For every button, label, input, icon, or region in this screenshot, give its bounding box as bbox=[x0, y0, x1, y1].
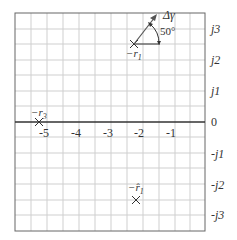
pole-label-r3-sub: 3 bbox=[43, 112, 47, 121]
pole-label-r1: −r1 bbox=[126, 48, 142, 62]
real-tick-minus-2: -2 bbox=[134, 127, 144, 139]
imag-tick-0: 0 bbox=[211, 116, 217, 128]
real-tick-minus-3: -3 bbox=[103, 127, 113, 139]
imag-tick-minus-j3: -j3 bbox=[211, 209, 224, 221]
pole-label-r1-hat-text: −r̂ bbox=[128, 181, 140, 193]
pole-label-r3: −r3 bbox=[31, 107, 47, 121]
pole-label-r3-text: −r bbox=[31, 106, 43, 118]
real-tick-minus-5: -5 bbox=[39, 127, 49, 139]
pole-label-r1-text: −r bbox=[126, 47, 138, 59]
imag-tick-j1: j1 bbox=[211, 85, 220, 97]
real-tick-minus-4: -4 bbox=[71, 127, 81, 139]
imag-tick-minus-j2: -j2 bbox=[211, 179, 224, 191]
imag-tick-j2: j2 bbox=[211, 54, 220, 66]
angle-label: 50° bbox=[160, 26, 175, 37]
pole-label-r1-hat: −r̂1 bbox=[128, 182, 144, 196]
delta-gamma-label: Δγ bbox=[163, 9, 175, 21]
imag-tick-minus-j1: -j1 bbox=[211, 148, 224, 160]
pole-label-r1-hat-sub: 1 bbox=[140, 187, 144, 196]
imag-tick-j3: j3 bbox=[211, 23, 220, 35]
pole-label-r1-sub: 1 bbox=[138, 53, 142, 62]
real-tick-minus-1: -1 bbox=[166, 127, 176, 139]
